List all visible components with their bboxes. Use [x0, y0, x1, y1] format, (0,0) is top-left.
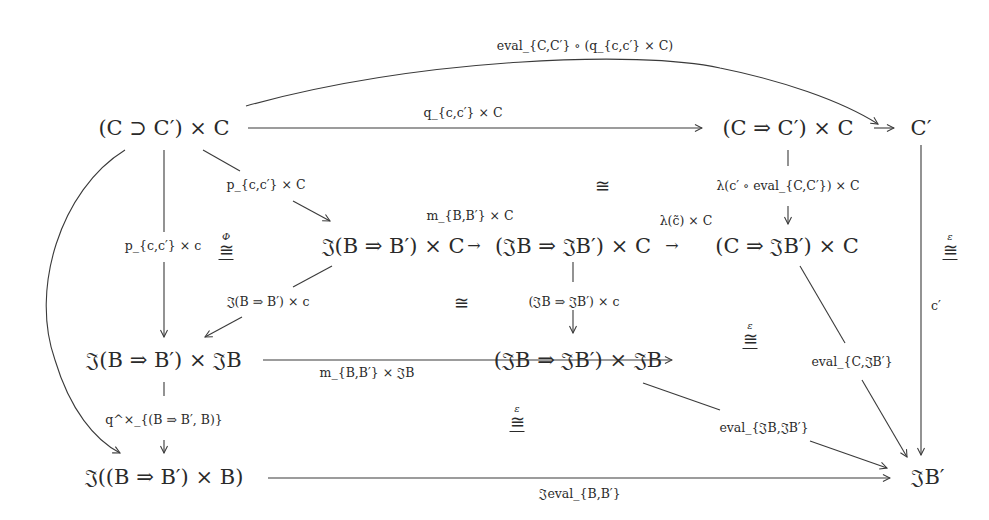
label-m-C: m_{B,B′} × C	[426, 209, 513, 223]
label-m-JB: m_{B,B′} × 𝔍B	[320, 366, 415, 380]
node-Cprime: C′	[911, 116, 932, 140]
label-J-times-c: 𝔍(B ⇒ B′) × c	[227, 295, 310, 309]
label-lambda-eval: λ(c′ ∘ eval_{C,C′}) × C	[716, 179, 859, 193]
commutative-diagram: (C ⊃ C′) × C (C ⇒ C′) × C C′ 𝔍(B ⇒ B′) ×…	[0, 0, 989, 520]
label-lambda-c-tilde: λ(c̃) × C	[660, 214, 713, 228]
label-top-curve: eval_{C,C′} ∘ (q_{c,c′} × C)	[497, 39, 673, 53]
node-JBprime: 𝔍B′	[911, 465, 944, 489]
diagram-edges	[0, 0, 989, 520]
edge-eval-C-JB-2	[862, 380, 907, 457]
iso-mid: ≅	[454, 294, 469, 312]
edge-top-curve	[246, 59, 878, 124]
edge-diag-p-1	[203, 150, 240, 171]
iso-eps-bottom: ε ≅	[510, 405, 525, 431]
edge-eval-JB-JB-2	[810, 441, 887, 468]
edge-eval-JB-JB-1	[643, 383, 720, 410]
node-C-imp-Cprime-times-C: (C ⇒ C′) × C	[722, 116, 853, 140]
edge-J-c-2	[205, 317, 242, 337]
iso-eps-right-symbol: ≅	[943, 241, 958, 259]
node-J-B-imp-Bprime-times-JB: 𝔍(B ⇒ B′) × 𝔍B	[86, 348, 241, 372]
edge-eval-C-JB-1	[800, 266, 845, 343]
iso-eps-mid-symbol: ≅	[743, 330, 758, 348]
node-JB-imp-JBprime-times-C: (𝔍B ⇒ 𝔍B′) × C	[495, 234, 651, 258]
label-q-times: q^×_{(B ⇒ B′, B)}	[105, 413, 223, 427]
edge-J-c-1	[293, 266, 332, 287]
iso-eps-mid: ε ≅	[743, 322, 758, 348]
iso-eps-bottom-symbol: ≅	[510, 413, 525, 431]
node-C-supset-Cprime-times-C: (C ⊃ C′) × C	[98, 116, 229, 140]
node-J-B-imp-Bprime-times-C: 𝔍(B ⇒ B′) × C	[322, 234, 465, 258]
node-J-of-B-imp-Bprime-times-B: 𝔍((B ⇒ B′) × B)	[85, 465, 244, 489]
arrow-right-icon: →	[467, 238, 480, 254]
label-J-eval: 𝔍eval_{B,B′}	[539, 487, 620, 501]
label-eval-JB-JB: eval_{𝔍B,𝔍B′}	[719, 421, 808, 435]
label-c-prime: c′	[931, 299, 941, 313]
label-top-straight: q_{c,c′} × C	[424, 106, 503, 120]
iso-phi-symbol: ≅	[219, 241, 234, 259]
label-left-vertical: p_{c,c′} × c	[125, 239, 201, 253]
label-eval-C-JB: eval_{C,𝔍B′}	[811, 355, 892, 369]
iso-phi: Φ ≅	[219, 233, 234, 259]
label-JB-times-c: (𝔍B ⇒ 𝔍B′) × c	[529, 295, 620, 309]
iso-mid-top: ≅	[595, 177, 610, 195]
node-C-imp-JBprime-times-C: (C ⇒ 𝔍B′) × C	[715, 234, 859, 258]
node-JB-imp-JBprime-times-JB: (𝔍B ⇒ 𝔍B′) × 𝔍B	[494, 348, 662, 372]
arrow-right-icon: →	[665, 238, 678, 254]
label-diag-p: p_{c,c′} × C	[227, 178, 306, 192]
iso-eps-right: ε ≅	[943, 233, 958, 259]
edge-diag-p-2	[293, 201, 330, 221]
iso-mid-top-symbol: ≅	[595, 177, 610, 195]
edge-left-curve	[46, 150, 125, 453]
iso-mid-symbol: ≅	[454, 294, 469, 312]
